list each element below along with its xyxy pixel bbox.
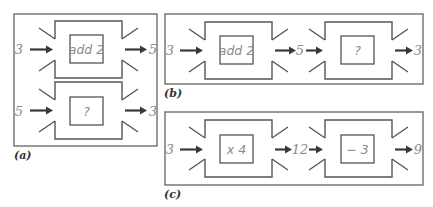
input-arrow-icon	[30, 107, 53, 115]
output-value: 3	[149, 104, 157, 119]
operation-label: ?	[83, 104, 90, 119]
input-value: 3	[166, 142, 174, 157]
middle-arrow-icon	[275, 47, 296, 55]
operation-label: ?	[354, 43, 361, 58]
input-arrow-icon	[30, 46, 53, 54]
panel-label: (b)	[164, 87, 182, 100]
middle-arrow-icon	[306, 47, 323, 55]
panel-b-frame	[165, 14, 423, 84]
output-value: 3	[414, 43, 422, 58]
input-value: 5	[15, 104, 23, 119]
operation-label: add 2	[219, 43, 255, 58]
output-value: 9	[414, 142, 422, 157]
panel-b-machine-1: add 2	[189, 22, 288, 79]
input-value: 3	[15, 42, 23, 57]
middle-value: 5	[296, 43, 304, 58]
output-arrow-icon	[125, 107, 147, 115]
output-value: 5	[149, 42, 157, 57]
input-arrow-icon	[180, 146, 203, 154]
panel-label: (c)	[164, 188, 181, 201]
middle-value: 12	[292, 142, 309, 157]
panel-c-machine-1: x 4	[189, 120, 288, 177]
panel-label: (a)	[14, 149, 32, 162]
output-arrow-icon	[395, 146, 413, 154]
input-value: 3	[166, 43, 174, 58]
panel-c: 3 x 4 12 − 3 9 (c)	[164, 112, 423, 201]
panel-c-machine-2: − 3	[309, 120, 408, 177]
function-machine-diagram: add 2 3 5 ? 5 3 (a) 3	[0, 0, 433, 207]
middle-arrow-icon	[309, 146, 323, 154]
middle-arrow-icon	[275, 146, 292, 154]
panel-b-machine-2: ?	[309, 22, 408, 79]
panel-a-machine-2: ?	[39, 82, 138, 139]
output-arrow-icon	[125, 46, 147, 54]
operation-label: add 2	[69, 42, 105, 57]
operation-label: x 4	[226, 142, 246, 157]
operation-label: − 3	[346, 142, 368, 157]
panel-a-machine-1: add 2	[39, 21, 138, 78]
input-arrow-icon	[180, 47, 203, 55]
panel-b: 3 add 2 5 ? 3 (b)	[164, 14, 423, 100]
panel-a-frame	[14, 14, 157, 146]
panel-a: add 2 3 5 ? 5 3 (a)	[14, 14, 157, 162]
output-arrow-icon	[395, 47, 413, 55]
